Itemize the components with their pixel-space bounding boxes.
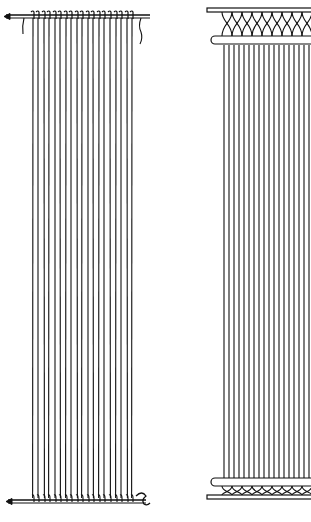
heading-loop [222,12,232,36]
left-warp-panel [4,11,150,505]
top-bar [207,8,311,12]
heading-loop [272,12,282,36]
heading-loop [282,12,292,36]
tie-end [140,18,142,44]
right-warp-panel [207,8,311,499]
heading-loop [302,486,311,495]
heading-loop [302,12,311,36]
warp-diagram [0,0,311,522]
heading-loop [292,12,302,36]
heading-loop [242,12,252,36]
bottom-rod [211,478,311,486]
heading-loop [262,12,272,36]
tie-end [23,18,24,34]
top-rod [211,36,311,44]
heading-loop [232,12,242,36]
bottom-bar [207,495,311,499]
heading-loop [252,12,262,36]
